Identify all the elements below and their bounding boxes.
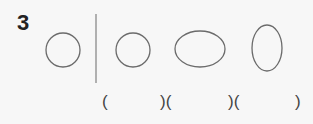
reference-circle-shape [46,33,80,67]
option-2-wide-ellipse-shape [175,31,225,67]
answer-blank-2-3-separator: )( [228,92,239,112]
answer-blank-1-open: ( [102,92,108,112]
shapes-figure [0,0,313,124]
answer-blank-1-2-separator: )( [160,92,171,112]
answer-blank-3-close: ) [295,92,301,112]
option-1-circle-shape [116,33,150,67]
option-3-tall-ellipse-shape [252,25,282,71]
